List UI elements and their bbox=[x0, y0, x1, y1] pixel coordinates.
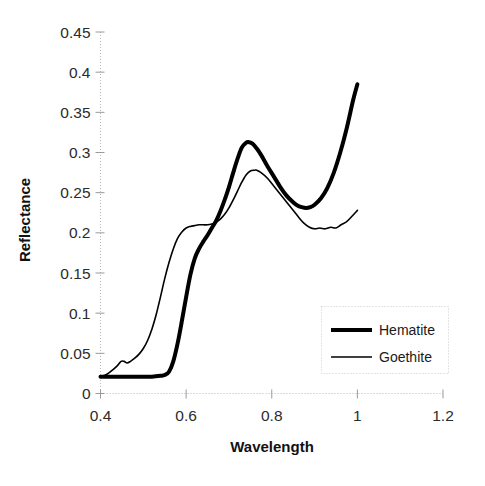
reflectance-spectra-chart: 00.050.10.150.20.250.30.350.40.45 0.40.6… bbox=[0, 0, 485, 486]
x-axis-title: Wavelength bbox=[230, 438, 314, 455]
y-axis-title: Reflectance bbox=[16, 178, 33, 262]
y-tick-label: 0.3 bbox=[69, 144, 91, 161]
chart-figure: 00.050.10.150.20.250.30.350.40.45 0.40.6… bbox=[0, 0, 485, 486]
chart-legend: Hematite Goethite bbox=[322, 307, 449, 374]
x-tick-label: 0.8 bbox=[261, 407, 283, 424]
y-tick-label: 0.4 bbox=[69, 64, 91, 81]
y-tick-label: 0.15 bbox=[60, 265, 90, 282]
legend-label-hematite: Hematite bbox=[379, 322, 435, 338]
y-tick-label: 0.25 bbox=[60, 184, 90, 201]
y-tick-label: 0.1 bbox=[69, 305, 91, 322]
x-tick-label: 0.6 bbox=[175, 407, 197, 424]
y-tick-label: 0.35 bbox=[60, 104, 90, 121]
x-tick-label: 1 bbox=[353, 407, 362, 424]
x-tick-labels: 0.40.60.811.2 bbox=[90, 407, 454, 424]
x-tick-label: 0.4 bbox=[90, 407, 112, 424]
y-tick-label: 0.2 bbox=[69, 224, 91, 241]
x-tick-label: 1.2 bbox=[432, 407, 454, 424]
series-line-hematite bbox=[101, 84, 358, 376]
y-tick-label: 0.05 bbox=[60, 345, 90, 362]
y-tick-label: 0 bbox=[82, 385, 91, 402]
legend-label-goethite: Goethite bbox=[379, 349, 432, 365]
y-tick-labels: 00.050.10.150.20.250.30.350.40.45 bbox=[60, 24, 91, 403]
y-tick-label: 0.45 bbox=[60, 24, 90, 41]
